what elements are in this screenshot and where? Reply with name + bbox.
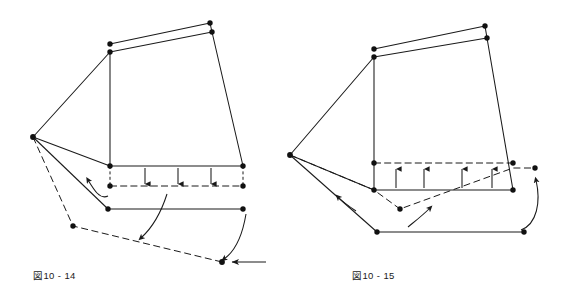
figure-10-14-caption: 図10 - 14 [33,268,76,282]
figure-10-15-drawing [0,0,564,297]
edge-upper-left [290,57,374,155]
edge-right [487,38,513,190]
figure-10-15-caption: 図10 - 15 [352,268,395,282]
vertex-dot [287,152,293,158]
vertex-dot [482,23,487,28]
vertex-dot [371,54,376,59]
curve-arrow-right [521,180,538,230]
vertex-dots-right [287,23,538,234]
vertex-dot [371,46,376,51]
vertex-dot [371,160,376,165]
vertex-dot [510,160,515,165]
vertex-dot [521,229,526,234]
vertex-dot [510,187,515,192]
edge-top-outer [374,26,485,49]
vertex-dot [532,165,537,170]
curve-arrow-left [338,197,356,211]
apex-to-lower-line [290,155,377,232]
vertex-dot [397,206,402,211]
figure-page: 図10 - 14 図10 - 15 [0,0,564,297]
vertex-dot [371,187,376,192]
edge-top-inner [374,38,487,57]
vertex-dot [374,229,379,234]
curve-arrow-mid [408,208,430,227]
vertex-dot [484,35,489,40]
load-arrows-up [396,169,492,188]
figure-10-15-body-outline [290,26,513,190]
